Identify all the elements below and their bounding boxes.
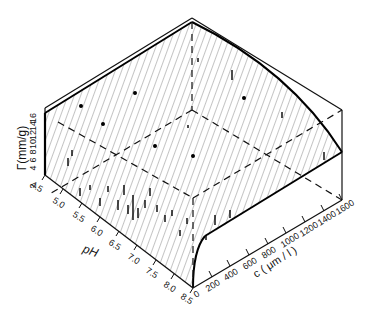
svg-text:6: 6 (28, 157, 38, 162)
svg-text:7.5: 7.5 (144, 265, 160, 280)
svg-text:4.5: 4.5 (29, 179, 45, 194)
svg-text:5.5: 5.5 (71, 209, 87, 224)
svg-text:8.0: 8.0 (162, 279, 178, 294)
svg-text:6.5: 6.5 (107, 237, 123, 252)
svg-text:14: 14 (28, 121, 38, 131)
svg-text:10: 10 (28, 139, 38, 149)
svg-text:12: 12 (28, 130, 38, 140)
svg-text:7.0: 7.0 (126, 251, 142, 266)
ph-axis-title: pH (80, 241, 100, 260)
svg-text:1600: 1600 (334, 198, 356, 217)
gamma-axis-title: Γ(mm/g) (15, 126, 29, 171)
svg-text:8: 8 (28, 149, 38, 154)
svg-text:4: 4 (28, 165, 38, 170)
surface-plot: 16 14 12 10 8 6 4 2 Γ(mm/g) 4.5 5.0 5.5 … (0, 0, 373, 312)
svg-text:5.0: 5.0 (51, 195, 67, 210)
svg-text:6.0: 6.0 (89, 223, 105, 238)
gamma-tick-labels: 16 14 12 10 8 6 4 2 (28, 113, 38, 189)
